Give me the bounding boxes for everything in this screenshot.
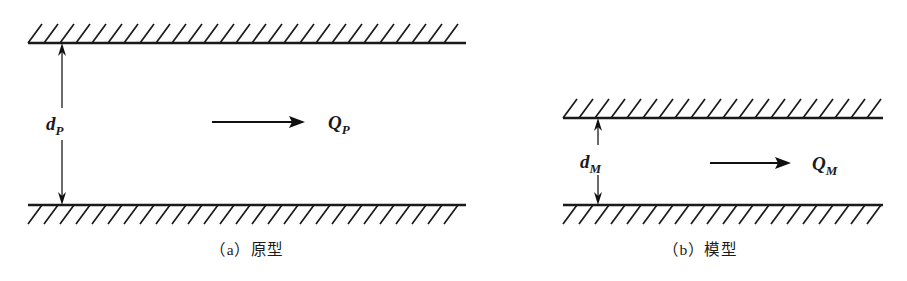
- panel-a-flow-arrow: [212, 116, 305, 128]
- bottom-wall-hatching: [563, 205, 881, 224]
- bottom-wall-hatching: [28, 205, 458, 224]
- panel-b-bottom-wall: [563, 205, 883, 224]
- gap-label-dm-main: d: [580, 151, 590, 172]
- flow-label-qp-sub: P: [342, 122, 351, 137]
- gap-label-dm-sub: M: [589, 161, 602, 176]
- top-wall-hatching: [563, 99, 881, 118]
- flow-label-qp-main: Q: [328, 112, 342, 133]
- panel-b-caption: （b）模型: [663, 241, 737, 258]
- figure-container: dP QP （a）原型: [0, 0, 907, 281]
- channel-flow-diagram: dP QP （a）原型: [0, 0, 907, 281]
- flow-label-qm-sub: M: [825, 163, 838, 178]
- panel-a-caption: （a）原型: [210, 241, 283, 258]
- flow-label-qm-main: Q: [812, 153, 826, 174]
- gap-label-dm: dM: [580, 151, 602, 176]
- panel-a-bottom-wall: [28, 205, 466, 224]
- panel-b-flow-arrow: [710, 157, 791, 169]
- flow-label-qp: QP: [328, 112, 351, 137]
- panel-a-top-wall: [28, 24, 466, 43]
- panel-a: dP QP （a）原型: [28, 24, 466, 258]
- gap-label-dp-main: d: [46, 113, 56, 134]
- panel-b-top-wall: [563, 99, 883, 118]
- panel-b: dM QM （b）模型: [563, 99, 883, 258]
- gap-label-dp-sub: P: [56, 123, 65, 138]
- flow-label-qm: QM: [812, 153, 838, 178]
- gap-label-dp: dP: [46, 113, 65, 138]
- top-wall-hatching: [28, 24, 458, 43]
